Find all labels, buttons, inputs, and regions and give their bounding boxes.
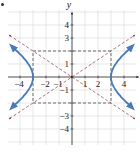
y-tick-label: −1 (59, 85, 69, 95)
x-tick-label: 2 (96, 79, 101, 89)
axes (8, 13, 138, 145)
x-tick-label: 4 (122, 79, 127, 89)
y-tick-label: −3 (59, 111, 69, 121)
x-tick-label: −2 (40, 79, 50, 89)
y-axis-label: y (66, 0, 72, 10)
x-tick-label: 1 (83, 79, 88, 89)
y-tick-label: −4 (59, 124, 69, 134)
hyperbola-plot: y−4−2−1124431−1−3−4 (0, 0, 140, 155)
y-tick-label: 3 (65, 33, 70, 43)
y-tick-label: 1 (65, 59, 70, 69)
y-tick-label: 4 (65, 20, 70, 30)
x-tick-label: −4 (14, 79, 24, 89)
